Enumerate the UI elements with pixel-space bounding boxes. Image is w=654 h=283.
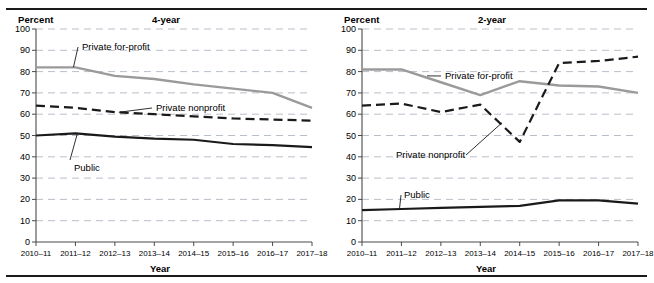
x-axis-tick-label: 2010–11 bbox=[347, 249, 378, 258]
x-axis-tick-label: 2013–14 bbox=[139, 249, 170, 258]
series-label-public: Public bbox=[404, 189, 430, 200]
y-axis-tick-label: 90 bbox=[328, 45, 356, 55]
x-axis-tick-label: 2014–15 bbox=[178, 249, 209, 258]
y-axis-tick-label: 20 bbox=[328, 194, 356, 204]
y-axis-tick-label: 100 bbox=[328, 24, 356, 34]
x-axis-caption-right: Year bbox=[476, 263, 496, 274]
x-axis-tick-label: 2016–17 bbox=[583, 249, 614, 258]
x-axis-tick-label: 2010–11 bbox=[21, 249, 52, 258]
x-axis-tick-label: 2015–16 bbox=[544, 249, 575, 258]
y-axis-tick-label: 0 bbox=[328, 237, 356, 247]
y-axis-tick-label: 70 bbox=[328, 88, 356, 98]
y-axis-tick-label: 0 bbox=[2, 237, 30, 247]
series-label-public: Public bbox=[74, 162, 100, 173]
x-axis-tick-label: 2017–18 bbox=[622, 249, 653, 258]
y-axis-tick-label: 80 bbox=[328, 67, 356, 77]
leader-line bbox=[466, 123, 502, 155]
y-axis-tick-label: 40 bbox=[2, 152, 30, 162]
plot-area-right: 01020304050607080901002010–112011–122012… bbox=[362, 29, 638, 242]
y-axis-tick-label: 80 bbox=[2, 67, 30, 77]
leader-line bbox=[70, 133, 77, 160]
y-axis-tick-label: 60 bbox=[2, 109, 30, 119]
y-axis-tick-label: 10 bbox=[328, 216, 356, 226]
y-axis-tick-label: 60 bbox=[328, 109, 356, 119]
chart-svg bbox=[36, 29, 312, 242]
x-axis-tick-label: 2012–13 bbox=[425, 249, 456, 258]
x-axis-tick-label: 2015–16 bbox=[218, 249, 249, 258]
x-axis-tick-label: 2014–15 bbox=[504, 249, 535, 258]
y-axis-tick-label: 20 bbox=[2, 194, 30, 204]
y-axis-tick-label: 70 bbox=[2, 88, 30, 98]
y-axis-tick-label: 100 bbox=[2, 24, 30, 34]
chart-svg bbox=[362, 29, 638, 242]
x-axis-tick-label: 2011–12 bbox=[60, 249, 91, 258]
series-label-private-for-profit: Private for-profit bbox=[82, 41, 150, 52]
x-axis-tick-label: 2011–12 bbox=[386, 249, 417, 258]
y-axis-tick-label: 90 bbox=[2, 45, 30, 55]
chart-title-left: 4-year bbox=[152, 14, 180, 25]
series-label-private-for-profit: Private for-profit bbox=[445, 70, 513, 81]
chart-panel-2-year: Percent 2-year 0102030405060708090100201… bbox=[326, 0, 653, 283]
y-axis-tick-label: 50 bbox=[2, 131, 30, 141]
chart-panel-4-year: Percent 4-year 0102030405060708090100201… bbox=[0, 0, 327, 283]
y-axis-tick-label: 10 bbox=[2, 216, 30, 226]
x-axis-tick-label: 2013–14 bbox=[465, 249, 496, 258]
leader-line bbox=[399, 195, 401, 209]
series-line-public bbox=[362, 200, 638, 210]
series-label-private-nonprofit: Private nonprofit bbox=[156, 102, 225, 113]
y-axis-tick-label: 30 bbox=[2, 173, 30, 183]
x-axis-tick-label: 2012–13 bbox=[99, 249, 130, 258]
x-axis-tick-label: 2016–17 bbox=[257, 249, 288, 258]
series-label-private-nonprofit: Private nonprofit bbox=[396, 149, 465, 160]
x-axis-tick-label: 2017–18 bbox=[296, 249, 327, 258]
x-axis-caption-left: Year bbox=[150, 263, 170, 274]
y-axis-tick-label: 30 bbox=[328, 173, 356, 183]
chart-title-right: 2-year bbox=[478, 14, 506, 25]
leader-line bbox=[119, 108, 152, 112]
plot-area-left: 01020304050607080901002010–112011–122012… bbox=[36, 29, 312, 242]
y-axis-tick-label: 50 bbox=[328, 131, 356, 141]
y-axis-tick-label: 40 bbox=[328, 152, 356, 162]
